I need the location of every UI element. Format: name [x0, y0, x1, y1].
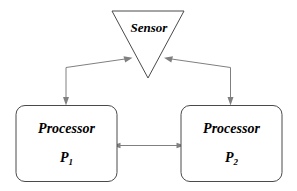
processor-1-shape: [16, 106, 117, 182]
processor-1-label: Processor: [38, 121, 95, 136]
edge-sensor-processor1-head-down: [63, 97, 69, 106]
processor-1-sublabel-index: 1: [69, 157, 74, 167]
node-sensor[interactable]: Sensor: [112, 11, 184, 78]
diagram-svg: Sensor Processor P1 Processor P2: [0, 0, 297, 191]
edge-sensor-processor2[interactable]: [164, 56, 234, 105]
processor-2-label: Processor: [203, 121, 260, 136]
edge-sensor-processor1[interactable]: [63, 56, 133, 105]
diagram-canvas: Sensor Processor P1 Processor P2: [0, 0, 297, 191]
edge-sensor-processor2-line: [168, 59, 231, 102]
node-processor-2[interactable]: Processor P2: [181, 106, 282, 182]
edge-sensor-processor1-line: [66, 59, 129, 102]
edge-sensor-processor2-head-down: [228, 97, 234, 106]
node-processor-1[interactable]: Processor P1: [16, 106, 117, 182]
edge-sensor-processor1-head-up: [124, 56, 133, 62]
edge-sensor-processor2-head-up: [164, 56, 173, 62]
processor-2-shape: [181, 106, 282, 182]
processor-2-sublabel-index: 2: [233, 157, 239, 167]
sensor-label: Sensor: [131, 20, 169, 35]
edge-processor1-processor2[interactable]: [113, 143, 185, 148]
